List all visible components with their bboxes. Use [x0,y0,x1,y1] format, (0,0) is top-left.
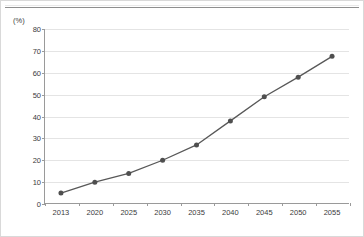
series-line [61,56,332,193]
y-tick-label: 0 [3,200,41,209]
y-axis-tick-labels: 01020304050607080 [1,1,41,237]
y-tick-label: 20 [3,156,41,165]
x-tick-label: 2045 [256,208,273,217]
chart-page: (%) 01020304050607080 201320202025203020… [0,0,364,237]
data-point-marker [58,191,63,196]
x-tick-label: 2030 [154,208,171,217]
data-point-marker [330,54,335,59]
x-tick-label: 2025 [120,208,137,217]
y-tick-label: 30 [3,134,41,143]
y-tick-label: 50 [3,90,41,99]
x-tick-label: 2035 [188,208,205,217]
x-tick-label: 2055 [324,208,341,217]
data-point-marker [194,142,199,147]
data-point-marker [262,94,267,99]
y-tick-label: 80 [3,25,41,34]
series-markers [58,54,334,196]
y-tick-label: 40 [3,112,41,121]
x-tick-label: 2040 [222,208,239,217]
y-tick-label: 10 [3,178,41,187]
x-tick-label: 2013 [53,208,70,217]
y-tick-label: 70 [3,46,41,55]
y-tick-label: 60 [3,68,41,77]
data-point-marker [92,180,97,185]
data-point-marker [126,171,131,176]
x-tick-mark [350,203,351,206]
x-tick-label: 2050 [290,208,307,217]
data-point-marker [228,118,233,123]
data-point-marker [160,158,165,163]
data-point-marker [296,75,301,80]
x-tick-label: 2020 [86,208,103,217]
series-line-group [44,29,349,204]
line-chart: (%) 01020304050607080 [1,1,364,237]
